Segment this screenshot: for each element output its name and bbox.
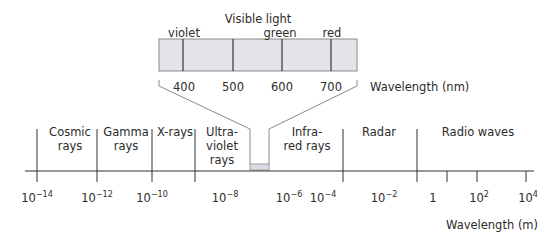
tick-label-1e-10: 10−10	[136, 192, 168, 205]
region-infrared-rays: Infra- red rays	[283, 125, 330, 153]
visible-band-marker	[250, 164, 269, 170]
label-violet: violet	[168, 26, 200, 40]
tick-label-1e-6: 10−6	[276, 192, 302, 205]
tick-label-1: 1	[429, 192, 436, 205]
label-red: red	[323, 26, 342, 40]
region-gamma-rays: Gamma rays	[103, 125, 148, 153]
region-x-rays: X-rays	[157, 125, 193, 139]
visible-axis-label: Wavelength (nm)	[370, 80, 469, 94]
visible-tick-label-600: 600	[271, 80, 293, 94]
visible-light-band	[159, 39, 357, 71]
visible-tick-label-400: 400	[173, 80, 195, 94]
em-spectrum-diagram: Visible light violet green red 400 500 6…	[0, 0, 559, 245]
region-radar: Radar	[362, 125, 396, 139]
tick-label-1e-8: 10−8	[212, 192, 238, 205]
visible-light-title: Visible light	[225, 12, 292, 26]
visible-tick-label-500: 500	[222, 80, 244, 94]
tick-label-1e-4: 10−4	[310, 192, 336, 205]
tick-label-1e2: 102	[469, 192, 489, 205]
tick-label-1e-2: 10−2	[371, 192, 397, 205]
main-axis-label: Wavelength (m)	[446, 218, 538, 232]
tick-label-1e4: 104	[518, 192, 538, 205]
visible-tick-label-700: 700	[320, 80, 342, 94]
region-ultraviolet-rays: Ultra- violet rays	[206, 125, 238, 167]
tick-label-1e-12: 10−12	[81, 192, 113, 205]
label-green: green	[263, 26, 296, 40]
region-cosmic-rays: Cosmic rays	[49, 125, 91, 153]
region-radio-waves: Radio waves	[442, 125, 514, 139]
tick-label-1e-14: 10−14	[21, 192, 53, 205]
